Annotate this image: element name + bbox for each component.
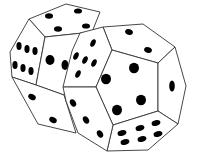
pip (24, 45, 29, 53)
front-die (63, 24, 186, 151)
pip (136, 95, 146, 105)
pip (82, 23, 90, 28)
pip (112, 105, 122, 115)
pip (46, 55, 55, 65)
pip (16, 42, 21, 50)
dice-illustration (0, 0, 197, 161)
pip (129, 63, 139, 73)
pip (54, 26, 62, 32)
pip (28, 67, 33, 75)
pip (101, 74, 111, 84)
pip (74, 8, 82, 13)
pip (12, 61, 17, 69)
pip (20, 64, 25, 72)
pip (169, 81, 175, 92)
pip (45, 13, 53, 19)
pip (32, 47, 37, 55)
